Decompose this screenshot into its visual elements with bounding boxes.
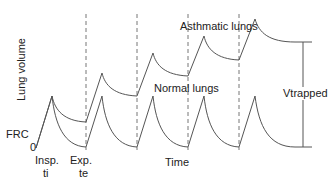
vtrapped-label: Vtrapped <box>283 87 328 100</box>
insp-label: Insp. <box>35 155 59 166</box>
y-axis-label: Lung volume <box>16 38 27 101</box>
asthmatic-lungs-label: Asthmatic lungs <box>180 21 258 32</box>
x-axis-label: Time <box>165 157 189 168</box>
exp-label: Exp. <box>70 155 92 166</box>
ti-label: ti <box>43 168 49 179</box>
origin-label: 0 <box>30 142 36 153</box>
normal-lungs-label: Normal lungs <box>154 83 219 94</box>
normal-lungs-curve <box>36 96 312 148</box>
frc-label: FRC <box>6 129 29 140</box>
te-label: te <box>79 168 88 179</box>
